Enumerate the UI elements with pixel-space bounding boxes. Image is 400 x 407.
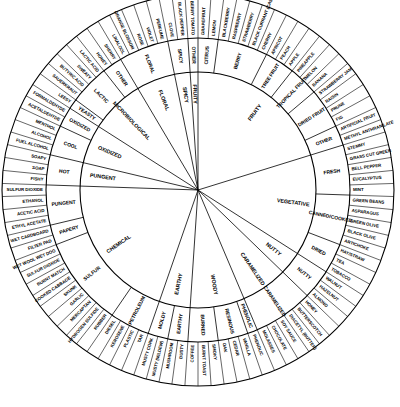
outer-label-76: MENTHOL (35, 119, 57, 132)
outer-label-27: BLACK OLIVE (347, 228, 377, 241)
inner-label-3: CARAMELIZED (239, 251, 266, 286)
outer-label-48: DUSTY (178, 344, 184, 359)
divider-mid-20 (46, 185, 80, 186)
mid-label-21: COOL (63, 140, 78, 150)
divider-inner-3 (198, 190, 283, 272)
outer-label-20: GRASS CUT GREEN (349, 148, 391, 161)
divider-outer-23 (350, 183, 394, 184)
outer-label-21: BELL PEPPER (351, 162, 382, 171)
mid-label-9: NUTTY (296, 266, 313, 281)
mid-label-8: DRIED (311, 244, 328, 256)
outer-label-45: SMOKY (211, 344, 218, 360)
outer-label-24: GREEN BEANS (353, 198, 385, 205)
outer-label-89: VIOLET (145, 26, 154, 43)
mid-label-2: TREE FRUIT (260, 62, 281, 90)
mid-label-25: OTHER (115, 70, 130, 88)
aroma-wheel-diagram: FRUITYVEGETATIVENUTTYCARAMELIZEDWOODYEAR… (0, 0, 400, 407)
outer-label-91: CLOVE (168, 22, 175, 38)
inner-label-8: OXIDIZED (97, 144, 123, 159)
inner-label-12: FRUITY (192, 84, 199, 104)
outer-label-15: PRUNE (330, 101, 346, 113)
mid-label-4: DRIED FRUIT (297, 106, 326, 128)
outer-label-22: EUCALYPTUS (352, 175, 381, 182)
outer-label-68: ACETIC ACID (17, 208, 45, 217)
divider-mid-1 (214, 39, 219, 73)
inner-label-9: MICROBIOLOGICAL (112, 100, 152, 141)
divider-mid-13 (214, 307, 219, 341)
divider-inner-4 (198, 190, 244, 299)
mid-label-15: MOLDY (156, 310, 167, 329)
outer-label-30: TEA (335, 257, 346, 266)
mid-label-0: CITRUS (203, 45, 210, 64)
mid-label-18: PAPERY (59, 223, 80, 235)
divider-outer-48 (185, 342, 188, 386)
inner-label-11: SPICY (182, 86, 190, 103)
mid-ring-labels: CITRUSBERRYTREE FRUITTROPICAL FRUITDRIED… (51, 45, 353, 336)
mid-label-17: SULFUR (82, 264, 102, 281)
divider-outer-72 (3, 170, 47, 174)
outer-label-72: SOAP (32, 165, 45, 172)
inner-label-4: WOODY (210, 274, 219, 296)
mid-label-10: CARAMELIZED (262, 284, 287, 317)
outer-label-23: MINT (353, 187, 364, 192)
aroma-wheel-svg: FRUITYVEGETATIVENUTTYCARAMELIZEDWOODYEAR… (0, 0, 400, 407)
divider-inner-5 (190, 190, 198, 308)
divider-mid-17 (112, 287, 131, 315)
outer-label-3: RASPBERRY (231, 12, 242, 39)
divider-mid-21 (50, 155, 83, 163)
outer-label-65: FILTER PAD (27, 238, 52, 251)
outer-label-73: SOAPY (31, 153, 47, 161)
outer-label-84: HONEY (95, 51, 108, 66)
mid-label-22: OXIDIZED (68, 116, 92, 133)
outer-label-75: ALCOHOL (31, 129, 53, 141)
mid-label-5: OTHER (315, 135, 334, 147)
outer-label-46: BURNT TOAST (201, 345, 207, 376)
divider-mid-28 (188, 38, 190, 72)
mid-label-24: LACTIC (93, 87, 110, 104)
outer-label-1: LEMON (211, 20, 218, 36)
divider-inner-7 (80, 186, 198, 190)
outer-label-53: PLASTIC (122, 329, 135, 349)
divider-inner-1 (198, 155, 311, 190)
mid-label-7: CANNED/COOKED (308, 209, 353, 224)
mid-label-3: TROPICAL FRUIT (275, 76, 308, 110)
outer-label-70: SULFUR DIOXIDE (7, 187, 43, 192)
outer-label-9: APPLE (288, 52, 301, 67)
outer-label-52: TAR (137, 333, 145, 344)
inner-label-1: VEGETATIVE (277, 197, 311, 207)
outer-label-16: FIG (335, 114, 344, 122)
mid-label-27: SPICY (177, 48, 185, 64)
mid-label-1: BERRY (232, 51, 243, 70)
mid-label-12: RESINOUS (224, 308, 236, 335)
inner-label-2: NUTTY (265, 241, 283, 257)
outer-label-0: GRAPEFRUIT (200, 7, 206, 36)
divider-outer-70 (2, 195, 46, 196)
outer-label-69: ETHANOL (22, 197, 44, 203)
outer-label-2: BLACKBERRY (221, 7, 231, 38)
outer-label-44: OAK (222, 342, 229, 353)
inner-label-10: FLORAL (157, 89, 171, 112)
mid-label-26: FLORAL (144, 53, 157, 74)
mid-label-16: PETROLEUM (127, 295, 146, 325)
divider-outer-22 (349, 170, 393, 174)
outer-label-35: HONEY (304, 299, 318, 314)
mid-label-19: PUNGENT (51, 199, 76, 207)
outer-label-25: ASPARAGUS (351, 208, 379, 217)
outer-label-55: DIESEL (104, 319, 117, 335)
inner-label-6: CHEMICAL (105, 233, 132, 254)
divider-outer-24 (350, 195, 394, 196)
inner-ring-labels: FRUITYVEGETATIVENUTTYCARAMELIZEDWOODYEAR… (90, 84, 311, 295)
outer-label-47: COFFEE (189, 345, 195, 363)
divider-mid-6 (311, 145, 343, 155)
outer-label-11: MELON (304, 65, 318, 80)
inner-label-0: FRUITY (246, 103, 262, 122)
outer-label-41: PHENOLIC (252, 334, 265, 357)
outer-label-93: BERRY TOMATO (190, 1, 196, 36)
mid-label-6: FRESH (323, 167, 341, 175)
divider-outer-71 (2, 183, 46, 184)
outer-label-90: PERFUME (155, 18, 165, 40)
outer-label-14: RAISIN (324, 92, 339, 104)
mid-label-20: HOT (59, 168, 70, 175)
outer-label-42: VANILLA (242, 337, 252, 357)
outer-label-8: PEACH (279, 45, 291, 60)
